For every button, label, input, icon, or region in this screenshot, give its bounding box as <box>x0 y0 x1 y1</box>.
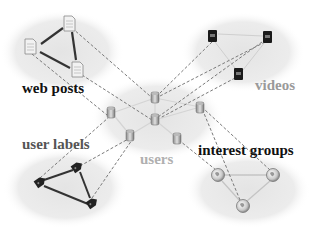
user-icon <box>173 133 181 144</box>
user-icon <box>126 130 134 141</box>
videos-label: videos <box>255 78 295 93</box>
globe-icon <box>237 200 250 213</box>
globe-icon <box>212 169 225 182</box>
network-diagram <box>0 0 314 230</box>
users-label: users <box>140 152 173 167</box>
interest-groups-cluster <box>186 152 310 228</box>
web-posts-label: web posts <box>22 81 84 96</box>
user-labels-label: user labels <box>22 137 90 152</box>
interest-groups-label: interest groups <box>198 143 294 158</box>
globe-icon <box>267 169 280 182</box>
video-icon <box>208 30 217 42</box>
user-icon <box>196 102 204 113</box>
video-icon <box>234 68 243 80</box>
document-icon <box>25 39 36 54</box>
video-icon <box>263 31 272 43</box>
user-labels-cluster <box>3 148 127 228</box>
user-icon <box>151 92 159 103</box>
user-icon <box>151 114 159 125</box>
document-icon <box>64 16 75 31</box>
user-icon <box>107 107 115 118</box>
document-icon <box>72 62 83 77</box>
